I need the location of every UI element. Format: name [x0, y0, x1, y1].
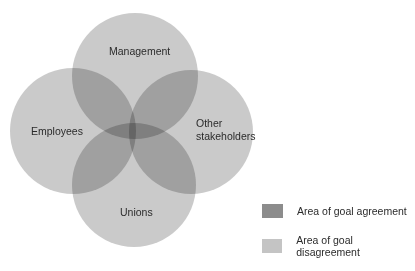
label-management: Management	[109, 45, 170, 58]
label-employees: Employees	[31, 125, 83, 138]
label-other-line2: stakeholders	[196, 130, 256, 143]
legend-label-agreement: Area of goal agreement	[297, 205, 407, 217]
swatch-disagreement	[262, 239, 282, 253]
legend-label-disagreement: Area of goal disagreement	[296, 234, 415, 258]
label-unions: Unions	[120, 206, 153, 219]
legend-item-disagreement: Area of goal disagreement	[262, 234, 415, 258]
legend-item-agreement: Area of goal agreement	[262, 204, 407, 218]
label-other-line1: Other	[196, 117, 256, 130]
circle-unions	[72, 123, 196, 247]
swatch-agreement	[262, 204, 283, 218]
label-other-stakeholders: Other stakeholders	[196, 117, 256, 143]
